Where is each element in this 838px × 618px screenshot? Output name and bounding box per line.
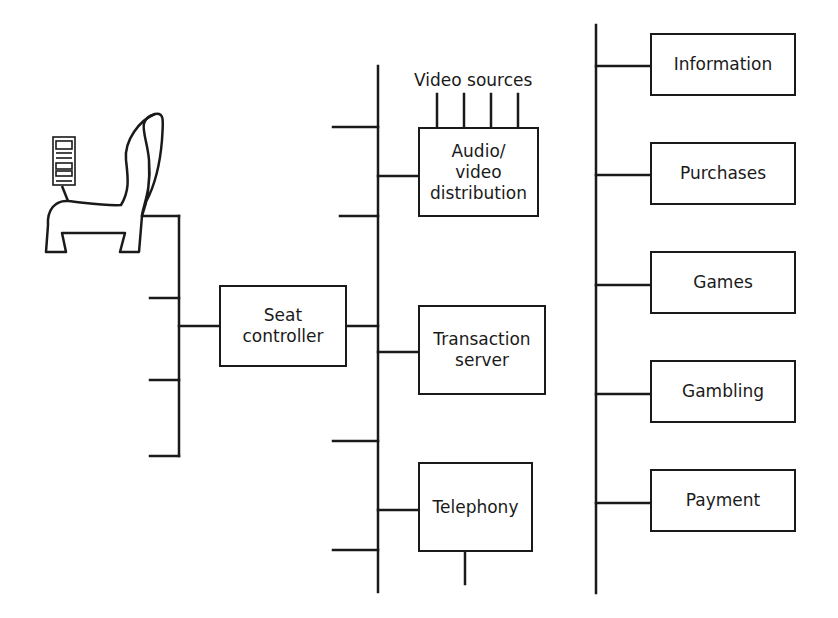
gambling-box: Gambling <box>650 360 796 423</box>
seat-controller-box: Seat controller <box>219 285 347 367</box>
handset-icon <box>53 137 75 185</box>
payment-box: Payment <box>650 469 796 532</box>
video-sources-label: Video sources <box>414 70 532 90</box>
transaction-server-box: Transaction server <box>418 305 546 395</box>
airline-seat-icon <box>46 114 163 252</box>
telephony-box: Telephony <box>418 462 533 552</box>
av-distribution-box: Audio/ video distribution <box>418 127 539 217</box>
purchases-box: Purchases <box>650 142 796 205</box>
information-box: Information <box>650 33 796 96</box>
games-box: Games <box>650 251 796 314</box>
